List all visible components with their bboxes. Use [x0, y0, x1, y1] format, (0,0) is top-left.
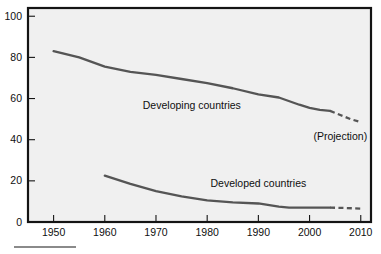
chart-container: 020406080100 195019601970198019902000201…: [0, 0, 381, 254]
x-tick-label: 1990: [247, 226, 271, 238]
line-chart: 020406080100 195019601970198019902000201…: [0, 0, 381, 254]
y-tick-label: 0: [16, 216, 22, 228]
x-tick-label: 2000: [298, 226, 322, 238]
projection-annotation: (Projection): [313, 130, 367, 142]
x-tick-label: 1980: [195, 226, 219, 238]
y-tick-label: 80: [10, 51, 22, 63]
y-tick-label: 100: [4, 10, 22, 22]
y-tick-label: 20: [10, 174, 22, 186]
x-tick-label: 1960: [93, 226, 117, 238]
x-axis-tick-labels: 1950196019701980199020002010: [42, 226, 373, 238]
plot-area-background: [28, 8, 371, 222]
y-tick-label: 60: [10, 92, 22, 104]
x-tick-label: 1970: [144, 226, 168, 238]
footer-rule: [14, 246, 76, 248]
series-label: Developing countries: [143, 99, 241, 111]
y-axis-tick-labels: 020406080100: [4, 10, 22, 228]
x-tick-label: 2010: [349, 226, 373, 238]
y-tick-label: 40: [10, 133, 22, 145]
x-tick-label: 1950: [42, 226, 66, 238]
series-label: Developed countries: [211, 177, 307, 189]
chart-annotations: (Projection): [313, 130, 367, 142]
